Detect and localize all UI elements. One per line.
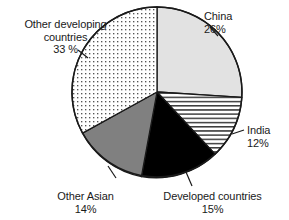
pie-label-china: China 26%: [204, 10, 232, 35]
pie-label-developed-countries-name: Developed countries: [150, 190, 275, 203]
pie-label-china-value: 26%: [204, 23, 232, 36]
pie-label-developed-countries: Developed countries 15%: [150, 190, 275, 215]
pie-label-developed-countries-value: 15%: [150, 203, 275, 216]
pie-label-other-developing-countries-name-line2: countries: [8, 31, 123, 44]
pie-label-other-asian-name: Other Asian: [33, 190, 138, 203]
pie-label-other-developing-countries-value: 33 %: [8, 43, 123, 56]
pie-label-other-asian: Other Asian 14%: [33, 190, 138, 215]
pie-label-other-developing-countries: Other developing countries 33 %: [8, 18, 123, 56]
leader-line-india: [232, 130, 244, 134]
pie-label-china-name: China: [204, 10, 232, 23]
pie-label-india-name: India: [247, 124, 270, 137]
pie-label-other-developing-countries-name-line1: Other developing: [8, 18, 123, 31]
pie-label-india-value: 12%: [247, 137, 270, 150]
pie-chart-figure: China 26% India 12% Developed countries …: [0, 0, 289, 220]
leader-line-other-asian: [108, 166, 116, 178]
pie-label-india: India 12%: [247, 124, 270, 149]
leader-line-developed-countries: [186, 172, 192, 186]
pie-label-other-asian-value: 14%: [33, 203, 138, 216]
